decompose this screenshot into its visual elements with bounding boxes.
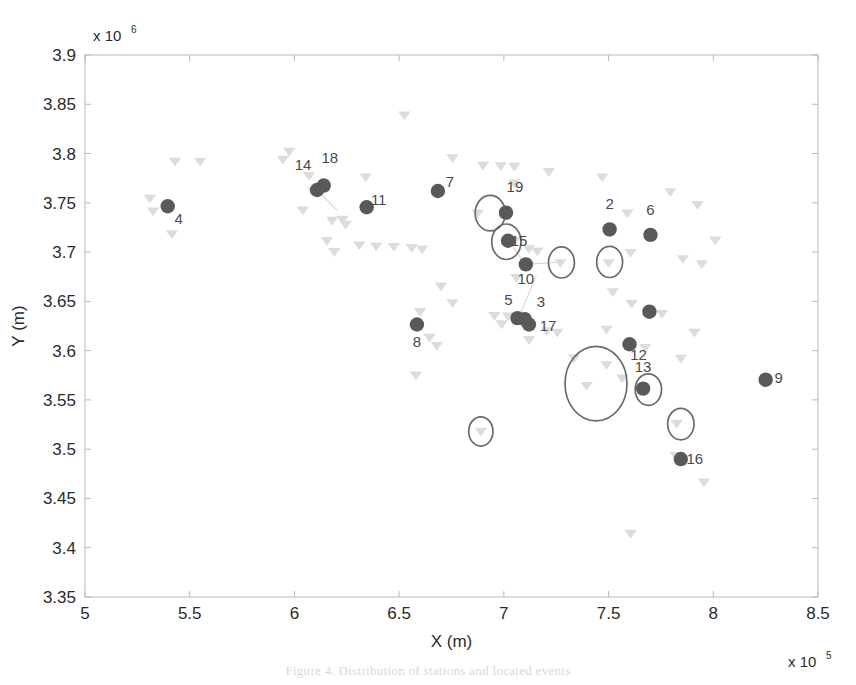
y-tick-label: 3.5 xyxy=(52,440,76,459)
station-label: 9 xyxy=(774,369,782,386)
y-tick-label: 3.45 xyxy=(43,489,76,508)
y-tick-label: 3.55 xyxy=(43,391,76,410)
station-marker xyxy=(499,205,513,219)
x-tick-label: 5 xyxy=(80,604,89,623)
station-marker xyxy=(161,199,175,213)
station-label: 14 xyxy=(295,156,312,173)
station-marker xyxy=(522,317,536,331)
y-exponent-power: 6 xyxy=(131,24,137,35)
y-exponent: x 10 xyxy=(93,27,121,44)
plot-background xyxy=(0,0,856,685)
station-marker xyxy=(643,228,657,242)
station-label: 7 xyxy=(446,173,454,190)
station-marker xyxy=(636,381,650,395)
station-label: 16 xyxy=(686,450,703,467)
y-tick-label: 3.8 xyxy=(52,145,76,164)
station-marker xyxy=(410,317,424,331)
x-tick-label: 7.5 xyxy=(597,604,621,623)
station-label: 10 xyxy=(518,270,535,287)
scatter-plot: 4141811719151026531781213169 55.566.577.… xyxy=(0,0,856,685)
station-marker xyxy=(431,184,445,198)
station-label: 15 xyxy=(511,232,528,249)
y-tick-label: 3.75 xyxy=(43,194,76,213)
station-label: 17 xyxy=(540,317,557,334)
y-tick-label: 3.6 xyxy=(52,342,76,361)
station-label: 2 xyxy=(605,195,613,212)
x-tick-label: 6 xyxy=(290,604,299,623)
station-label: 18 xyxy=(321,149,338,166)
figure-caption: Figure 4. Distribution of stations and l… xyxy=(0,663,856,685)
station-marker xyxy=(317,178,331,192)
station-marker xyxy=(758,373,772,387)
y-axis-title: Y (m) xyxy=(9,305,28,346)
station-label: 3 xyxy=(537,293,545,310)
y-tick-label: 3.9 xyxy=(52,46,76,65)
station-marker xyxy=(602,222,616,236)
y-tick-label: 3.4 xyxy=(52,539,76,558)
x-axis-title: X (m) xyxy=(431,632,473,651)
x-tick-label: 7 xyxy=(499,604,508,623)
station-label: 5 xyxy=(504,291,512,308)
station-label: 8 xyxy=(413,333,421,350)
station-marker xyxy=(642,305,656,319)
station-label: 11 xyxy=(371,191,387,208)
x-tick-label: 6.5 xyxy=(387,604,411,623)
station-label: 6 xyxy=(646,201,654,218)
station-label: 13 xyxy=(635,358,652,375)
x-tick-label: 5.5 xyxy=(178,604,202,623)
station-label: 19 xyxy=(507,178,524,195)
y-tick-label: 3.35 xyxy=(43,588,76,607)
figure-container: 4141811719151026531781213169 55.566.577.… xyxy=(0,0,856,685)
y-tick-label: 3.85 xyxy=(43,95,76,114)
y-tick-label: 3.65 xyxy=(43,292,76,311)
y-tick-label: 3.7 xyxy=(52,243,76,262)
x-tick-label: 8.5 xyxy=(806,604,830,623)
x-tick-label: 8 xyxy=(709,604,718,623)
station-label: 4 xyxy=(175,210,183,227)
x-exponent-power: 5 xyxy=(826,650,832,661)
